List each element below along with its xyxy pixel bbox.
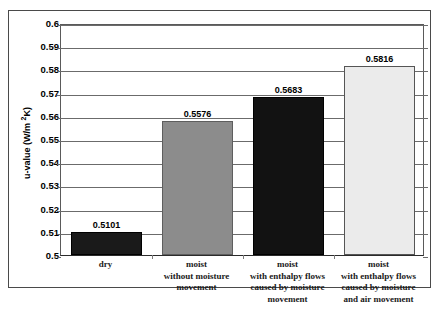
y-axis-tick-label: 0.51 bbox=[31, 228, 59, 238]
y-axis-tick-label: 0.52 bbox=[31, 205, 59, 215]
y-axis-title-superscript: 2 bbox=[20, 117, 27, 121]
y-axis-tick-mark bbox=[423, 95, 428, 96]
bar-value-label: 0.5683 bbox=[253, 85, 324, 95]
x-axis-category-label-line: with enthalpy flows bbox=[335, 271, 422, 283]
y-axis-tick-mark bbox=[423, 25, 428, 26]
x-axis-category-label-line: movement bbox=[153, 282, 240, 294]
y-axis-tick-label: 0.5 bbox=[31, 251, 59, 261]
y-axis-tick-mark bbox=[57, 187, 61, 188]
y-axis-tick-mark bbox=[423, 257, 428, 258]
y-axis-tick-mark bbox=[423, 71, 428, 72]
y-axis-tick-mark bbox=[57, 95, 61, 96]
y-axis-tick-mark bbox=[57, 118, 61, 119]
x-axis-category-label-line: dry bbox=[62, 259, 149, 271]
bar-value-label: 0.5816 bbox=[344, 54, 415, 64]
x-axis-category-label: moistwithout moisturemovement bbox=[151, 259, 242, 309]
x-axis-category-label-line: moist bbox=[335, 259, 422, 271]
x-axis-category-label-line: moist bbox=[244, 259, 331, 271]
y-axis-tick-label: 0.53 bbox=[31, 181, 59, 191]
y-axis-tick-mark bbox=[57, 164, 61, 165]
y-axis-tick-label: 0.57 bbox=[31, 89, 59, 99]
y-axis-tick-mark bbox=[57, 71, 61, 72]
y-axis-tick-mark bbox=[57, 257, 61, 258]
x-axis-category-labels: drymoistwithout moisturemovementmoistwit… bbox=[60, 259, 424, 309]
y-axis-tick-label: 0.55 bbox=[31, 135, 59, 145]
bar bbox=[253, 97, 324, 255]
x-axis-category-label: moistwith enthalpy flowscaused by moistu… bbox=[242, 259, 333, 309]
x-axis-category-label-line: moist bbox=[153, 259, 240, 271]
y-axis-tick-mark bbox=[423, 164, 428, 165]
y-axis-tick-mark bbox=[57, 48, 61, 49]
x-axis-category-label: dry bbox=[60, 259, 151, 309]
y-axis-tick-mark bbox=[423, 187, 428, 188]
y-axis-tick-label: 0.59 bbox=[31, 42, 59, 52]
bar-value-label: 0.5101 bbox=[71, 220, 142, 230]
y-axis-tick-mark bbox=[57, 25, 61, 26]
y-axis-tick-label: 0.56 bbox=[31, 112, 59, 122]
y-axis-tick-label: 0.58 bbox=[31, 65, 59, 75]
y-axis-tick-mark bbox=[423, 211, 428, 212]
bar bbox=[71, 232, 142, 255]
bar-value-label: 0.5576 bbox=[162, 109, 233, 119]
y-axis-tick-mark bbox=[423, 48, 428, 49]
chart-outer-frame: u-value (W/m 2K) 0.50.510.520.530.540.55… bbox=[8, 10, 431, 288]
plot-area: 0.51010.55760.56830.5816 bbox=[60, 24, 424, 256]
y-axis-tick-mark bbox=[57, 211, 61, 212]
y-axis-tick-mark bbox=[57, 234, 61, 235]
y-axis-tick-mark bbox=[423, 118, 428, 119]
x-axis-category-label-line: caused by moisture bbox=[244, 282, 331, 294]
bar bbox=[344, 66, 415, 255]
x-axis-category-label-line: without moisture bbox=[153, 271, 240, 283]
bar bbox=[162, 121, 233, 255]
y-axis-tick-mark bbox=[57, 141, 61, 142]
gridline bbox=[61, 25, 423, 26]
y-axis-tick-label: 0.6 bbox=[31, 19, 59, 29]
y-axis-tick-mark bbox=[423, 234, 428, 235]
chart-figure: u-value (W/m 2K) 0.50.510.520.530.540.55… bbox=[0, 0, 438, 309]
gridline bbox=[61, 48, 423, 49]
x-axis-category-label-line: movement bbox=[244, 294, 331, 306]
x-axis-category-label-line: and air movement bbox=[335, 294, 422, 306]
x-axis-category-label-line: caused by moisture bbox=[335, 282, 422, 294]
y-axis-tick-mark bbox=[423, 141, 428, 142]
y-axis-tick-labels: 0.50.510.520.530.540.550.560.570.580.590… bbox=[31, 24, 59, 256]
y-axis-tick-label: 0.54 bbox=[31, 158, 59, 168]
x-axis-category-label: moistwith enthalpy flowscaused by moistu… bbox=[333, 259, 424, 309]
x-axis-category-label-line: with enthalpy flows bbox=[244, 271, 331, 283]
